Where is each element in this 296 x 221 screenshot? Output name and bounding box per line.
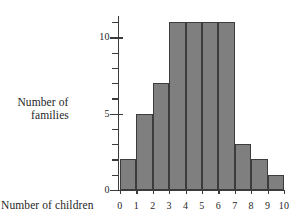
x-axis-tick-label: 3 xyxy=(160,200,178,211)
x-axis-tick-label: 1 xyxy=(127,200,145,211)
x-axis-tick xyxy=(235,190,236,194)
bar xyxy=(136,114,152,190)
y-axis-tick-label: 10 xyxy=(84,31,110,42)
x-axis-tick xyxy=(136,190,137,194)
x-axis-tick-label: 5 xyxy=(193,200,211,211)
y-axis-tick-minor xyxy=(112,98,119,99)
y-axis-tick-label: 5 xyxy=(84,108,110,119)
x-axis-tick xyxy=(153,190,154,194)
bar xyxy=(202,22,218,190)
x-axis-tick xyxy=(186,190,187,194)
bar xyxy=(235,144,251,190)
bar xyxy=(169,22,185,190)
x-axis-tick-label: 10 xyxy=(275,200,293,211)
x-axis-tick xyxy=(218,190,219,194)
y-axis-tick-minor xyxy=(112,83,119,84)
x-axis-tick-label: 2 xyxy=(144,200,162,211)
bar xyxy=(251,159,267,190)
bar xyxy=(268,175,284,190)
y-axis-tick-minor xyxy=(112,159,119,160)
y-axis-title-line-2: families xyxy=(2,109,84,122)
x-axis-title: Number of children xyxy=(1,199,113,212)
bar xyxy=(186,22,202,190)
x-axis-tick xyxy=(120,190,121,194)
y-axis-tick-minor xyxy=(112,22,119,23)
x-axis-tick-label: 4 xyxy=(177,200,195,211)
y-axis-tick-minor xyxy=(112,68,119,69)
x-axis-tick xyxy=(202,190,203,194)
x-axis-tick-label: 6 xyxy=(209,200,227,211)
y-axis-tick-minor xyxy=(112,53,119,54)
x-axis-tick xyxy=(251,190,252,194)
x-axis-tick-label: 0 xyxy=(111,200,129,211)
y-axis-tick-minor xyxy=(112,175,119,176)
bar xyxy=(153,83,169,190)
x-axis-tick xyxy=(169,190,170,194)
y-axis-title-line-1: Number of xyxy=(2,96,84,109)
x-axis-tick-label: 8 xyxy=(242,200,260,211)
x-axis-tick-label: 9 xyxy=(259,200,277,211)
x-axis-tick xyxy=(268,190,269,194)
bar xyxy=(218,22,234,190)
y-axis-tick-minor xyxy=(112,144,119,145)
y-axis-tick-minor xyxy=(112,129,119,130)
bars-container xyxy=(120,16,284,190)
x-axis-tick xyxy=(284,190,285,194)
bar xyxy=(120,159,136,190)
y-axis-tick-label: 0 xyxy=(84,184,110,195)
y-axis-title: Number of families xyxy=(2,96,84,122)
x-axis-tick-label: 7 xyxy=(226,200,244,211)
histogram-chart: Number of families Number of children 05… xyxy=(0,0,296,221)
